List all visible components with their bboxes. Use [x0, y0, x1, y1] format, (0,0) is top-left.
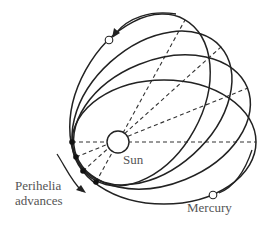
mercury-precession-diagram: Sun Perihelia advances Mercury	[0, 0, 272, 227]
perihelion-dot-2	[73, 154, 79, 160]
major-axis-3	[83, 46, 222, 171]
perihelia-label-line2: advances	[15, 193, 63, 208]
mercury-label: Mercury	[187, 200, 232, 215]
sun-icon	[107, 131, 129, 153]
mercury-icon	[209, 191, 217, 199]
planet-start-icon	[105, 36, 113, 44]
orbit-4	[41, 0, 239, 211]
perihelion-dot-4	[93, 179, 99, 185]
major-axis-2	[76, 88, 248, 157]
perihelion-dot-1	[69, 139, 75, 145]
perihelia-label-line1: Perihelia	[15, 178, 61, 193]
perihelion-dot-3	[80, 168, 86, 174]
sun-label: Sun	[123, 152, 144, 167]
